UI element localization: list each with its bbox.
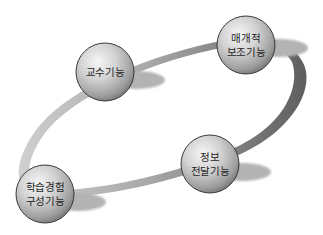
sphere-info bbox=[181, 135, 239, 193]
diagram-canvas bbox=[0, 0, 323, 235]
sphere-teaching bbox=[76, 43, 134, 101]
sphere-mediating bbox=[217, 16, 275, 74]
sphere-learning bbox=[16, 165, 74, 223]
cycle-diagram: 교수기능 매개적 보조기능 정보 전달기능 학습경험 구성기능 bbox=[0, 0, 323, 235]
